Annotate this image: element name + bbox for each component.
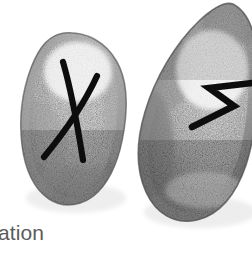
illustration-canvas: ation xyxy=(0,0,252,254)
stone-right xyxy=(126,0,252,244)
rune-stones-illustration xyxy=(0,0,252,254)
stone-left xyxy=(10,33,140,226)
caption-area: ation xyxy=(0,218,252,254)
caption-text: ation xyxy=(0,218,44,248)
